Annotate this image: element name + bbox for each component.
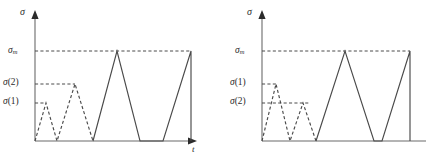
level-label-sigma-1-right: σ(1) [230, 78, 246, 88]
waveform-solid-left [93, 51, 191, 141]
chart-left-svg [0, 0, 215, 159]
level-label-sigma-1-left: σ(1) [3, 97, 19, 107]
chart-right-svg [214, 0, 429, 159]
level-label-sigma-1-right-paren: (1) [235, 77, 246, 87]
level-label-sigma-2-right-paren: (2) [235, 96, 246, 106]
level-label-sigma-m-left-sub: m [13, 48, 18, 55]
level-label-sigma-2-left: σ(2) [3, 78, 19, 88]
y-axis-label-right: σ [247, 7, 252, 17]
level-label-sigma-2-left-paren: (2) [8, 77, 19, 87]
chart-panel-right: σ σm σ(1) σ(2) [214, 0, 429, 159]
y-axis-arrow-icon-left [31, 10, 38, 19]
y-axis-label-left: σ [20, 7, 25, 17]
waveform-dashed-left [35, 84, 93, 141]
level-label-sigma-m-right-sub: m [240, 48, 245, 55]
level-label-sigma-m-right: σm [235, 46, 244, 56]
waveform-solid-right [316, 51, 410, 141]
y-axis-arrow-icon-right [258, 10, 265, 19]
level-label-sigma-m-left: σm [8, 46, 17, 56]
chart-panel-left: σ t σm σ(2) σ(1) [0, 0, 215, 159]
level-label-sigma-2-right: σ(2) [230, 97, 246, 107]
level-label-sigma-1-left-paren: (1) [8, 96, 19, 106]
waveform-dashed-right [262, 84, 316, 141]
x-axis-label-left: t [192, 145, 195, 154]
figure-root: σ t σm σ(2) σ(1) σ [0, 0, 429, 159]
